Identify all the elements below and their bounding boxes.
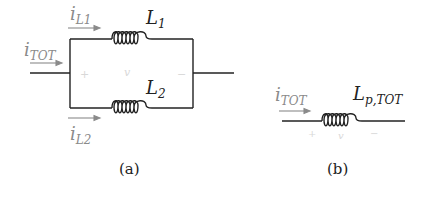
label-L1: L1 [145,7,166,31]
inductor-Lp-coil [322,114,362,126]
voltage-plus-a: + [80,68,89,81]
parallel-inductors-diagram: iTOT iL1 iL2 L1 L2 + v − (a) iTOT Lp,TOT… [0,0,431,197]
label-i-tot-a: iTOT [24,39,57,63]
inductor-L2-coil [112,101,152,113]
voltage-plus-b: + [308,128,316,139]
figure-b-circuit [282,114,405,126]
voltage-minus-b: − [370,128,378,139]
voltage-v-a: v [124,66,131,79]
figure-a-circuit [30,32,234,113]
caption-a: (a) [119,160,140,178]
label-Lp-tot: Lp,TOT [352,83,403,107]
voltage-v-b: v [338,130,344,141]
voltage-minus-a: − [177,68,186,81]
inductor-L1-coil [112,32,152,44]
label-i-tot-b: iTOT [275,84,308,108]
figure-b-current-arrow [279,109,310,114]
label-i-L2: iL2 [70,123,91,147]
label-i-L1: iL1 [70,3,91,27]
label-L2: L2 [145,77,166,101]
caption-b: (b) [327,160,348,178]
